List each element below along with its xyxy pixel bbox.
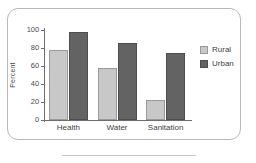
bar-health-rural xyxy=(49,50,68,120)
y-tick-label: 80 xyxy=(31,44,39,52)
bar-health-urban xyxy=(69,32,88,120)
chart-figure: Percent 020406080100 HealthWaterSanitati… xyxy=(0,0,256,163)
x-tick-label-health: Health xyxy=(57,123,80,132)
y-tick-label: 40 xyxy=(31,80,39,88)
y-tick-label: 0 xyxy=(35,116,39,124)
bar-water-urban xyxy=(118,43,137,120)
legend-swatch-icon xyxy=(200,46,208,54)
legend-label: Rural xyxy=(212,45,231,54)
chart-legend: RuralUrban xyxy=(200,44,248,72)
y-tick-label: 20 xyxy=(31,98,39,106)
bar-sanitation-urban xyxy=(166,53,185,120)
bar-group-water xyxy=(98,30,137,120)
legend-label: Urban xyxy=(212,59,234,68)
bar-water-rural xyxy=(98,68,117,120)
y-tick-label: 100 xyxy=(27,26,39,34)
legend-item-rural[interactable]: Rural xyxy=(200,44,248,55)
bar-group-sanitation xyxy=(146,30,185,120)
y-axis-title: Percent xyxy=(9,62,17,88)
x-axis-line xyxy=(43,120,192,121)
bar-sanitation-rural xyxy=(146,100,165,120)
bar-group-health xyxy=(49,30,88,120)
legend-swatch-icon xyxy=(200,60,208,68)
legend-item-urban[interactable]: Urban xyxy=(200,58,248,69)
x-tick-label-water: Water xyxy=(106,123,127,132)
footer-rule xyxy=(62,155,196,156)
y-tick-label: 60 xyxy=(31,62,39,70)
plot-area xyxy=(44,30,190,120)
x-tick-label-sanitation: Sanitation xyxy=(148,123,184,132)
